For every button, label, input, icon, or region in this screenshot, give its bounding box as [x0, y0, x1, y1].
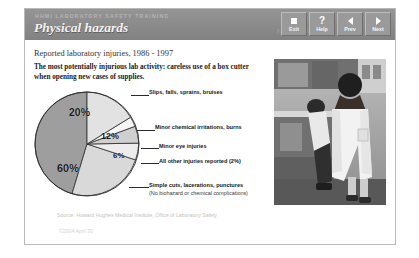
- chart-title: Reported laboratory injuries, 1986 - 199…: [34, 49, 173, 58]
- pie-slice-label-60: 60%: [57, 162, 79, 174]
- triangle-left-icon: [348, 15, 353, 26]
- callout-eye-injuries: Minor eye injuries: [159, 143, 207, 149]
- callout-slips-falls: Slips, falls, sprains, bruises: [149, 89, 223, 95]
- question-mark-icon: ?: [319, 15, 325, 26]
- exit-button[interactable]: Exit: [281, 12, 307, 36]
- pie-slice-label-20: 20%: [69, 106, 90, 118]
- triangle-right-icon: [376, 15, 381, 26]
- stop-square-icon: [291, 15, 297, 26]
- callout-1-text: Slips, falls, sprains, bruises: [149, 89, 223, 95]
- next-button-label: Next: [372, 27, 384, 32]
- callout-chemical-irritations: Minor chemical irritations, burns: [155, 124, 242, 130]
- page-title: Physical hazards: [34, 20, 128, 36]
- next-button[interactable]: Next: [365, 12, 391, 36]
- pie-graphic: 20% 12% 6% 60%: [31, 86, 149, 198]
- callout-4-text: All other injuries reported (2%): [159, 158, 241, 164]
- callout-2-text: Minor chemical irritations, burns: [155, 124, 242, 130]
- slide-header: HHMI LABORATORY SAFETY TRAINING Physical…: [25, 9, 395, 40]
- callout-other-injuries: All other injuries reported (2%): [159, 158, 241, 164]
- navigation-bar: Exit ? Help Prev Next: [281, 12, 391, 36]
- callout-simple-cuts: Simple cuts, lacerations, punctures (No …: [149, 182, 248, 196]
- callout-5-text: Simple cuts, lacerations, punctures: [149, 182, 243, 188]
- lab-photo: [274, 59, 386, 205]
- source-citation: Source: Howard Hughes Medical Institute,…: [57, 212, 217, 218]
- pie-slice-label-6: 6%: [113, 151, 125, 160]
- leader-line-5: [129, 187, 149, 188]
- prev-button[interactable]: Prev: [337, 12, 363, 36]
- slide-viewer: HHMI LABORATORY SAFETY TRAINING Physical…: [0, 0, 419, 258]
- pie-chart: 20% 12% 6% 60% Slips, falls, sprains, br…: [31, 86, 263, 206]
- callout-3-text: Minor eye injuries: [159, 143, 207, 149]
- help-button[interactable]: ? Help: [309, 12, 335, 36]
- course-title: HHMI LABORATORY SAFETY TRAINING: [35, 13, 170, 19]
- pie-slice-label-12: 12%: [101, 131, 119, 141]
- leader-line-2: [137, 130, 155, 131]
- callout-5-subtext: (No biohazard or chemical complications): [149, 190, 248, 196]
- leader-line-3: [141, 148, 159, 149]
- prev-button-label: Prev: [344, 27, 356, 32]
- leader-line-1: [131, 95, 149, 96]
- lab-photo-graphic: [274, 59, 386, 205]
- pie-svg: [31, 86, 149, 198]
- footer-code: ©2004 April 30: [59, 228, 93, 234]
- exit-button-label: Exit: [289, 27, 299, 32]
- help-button-label: Help: [316, 27, 328, 32]
- slide-frame: HHMI LABORATORY SAFETY TRAINING Physical…: [24, 8, 396, 245]
- leader-line-4: [141, 163, 159, 164]
- slide-content: Reported laboratory injuries, 1986 - 199…: [25, 40, 395, 244]
- lead-statement: The most potentially injurious lab activ…: [34, 63, 258, 82]
